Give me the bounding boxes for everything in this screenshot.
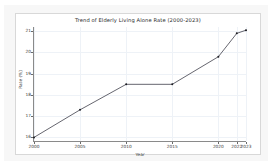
figure-margin-bottom — [0, 161, 276, 166]
data-point-marker — [33, 136, 35, 138]
data-point-marker — [236, 32, 238, 34]
gridline-vertical — [246, 27, 247, 141]
x-tick-label: 2010 — [121, 145, 132, 149]
data-markers — [33, 29, 247, 138]
x-tick-label: 2015 — [167, 145, 178, 149]
x-tick-label: 2023 — [241, 145, 252, 149]
y-tick-label: 19 — [26, 72, 31, 76]
y-tick-mark — [31, 52, 33, 53]
chart-figure: Trend of Elderly Living Alone Rate (2000… — [0, 0, 276, 166]
data-point-marker — [171, 83, 173, 85]
y-tick-mark — [31, 95, 33, 96]
x-tick-label: 2020 — [213, 145, 224, 149]
x-tick-label: 2005 — [75, 145, 86, 149]
figure-margin-left — [0, 0, 4, 166]
data-line — [34, 30, 246, 137]
figure-margin-right — [268, 0, 276, 166]
y-tick-mark — [31, 31, 33, 32]
y-tick-label: 16 — [26, 135, 31, 139]
data-point-marker — [217, 56, 219, 58]
y-tick-label: 18 — [26, 93, 31, 97]
y-tick-label: 17 — [26, 114, 31, 118]
chart-title: Trend of Elderly Living Alone Rate (2000… — [15, 17, 261, 23]
y-tick-label: 20 — [26, 50, 31, 54]
y-tick-mark — [31, 74, 33, 75]
figure-margin-top — [0, 0, 276, 5]
y-axis-label: Rate (%) — [18, 55, 23, 105]
y-tick-label: 21 — [26, 29, 31, 33]
data-series-layer — [34, 27, 246, 141]
y-tick-mark — [31, 137, 33, 138]
y-tick-mark — [31, 116, 33, 117]
data-point-marker — [125, 83, 127, 85]
data-point-marker — [245, 29, 247, 31]
data-point-marker — [79, 109, 81, 111]
x-tick-label: 2000 — [29, 145, 40, 149]
x-axis-line — [33, 141, 246, 142]
x-axis-label: Year — [34, 152, 246, 157]
